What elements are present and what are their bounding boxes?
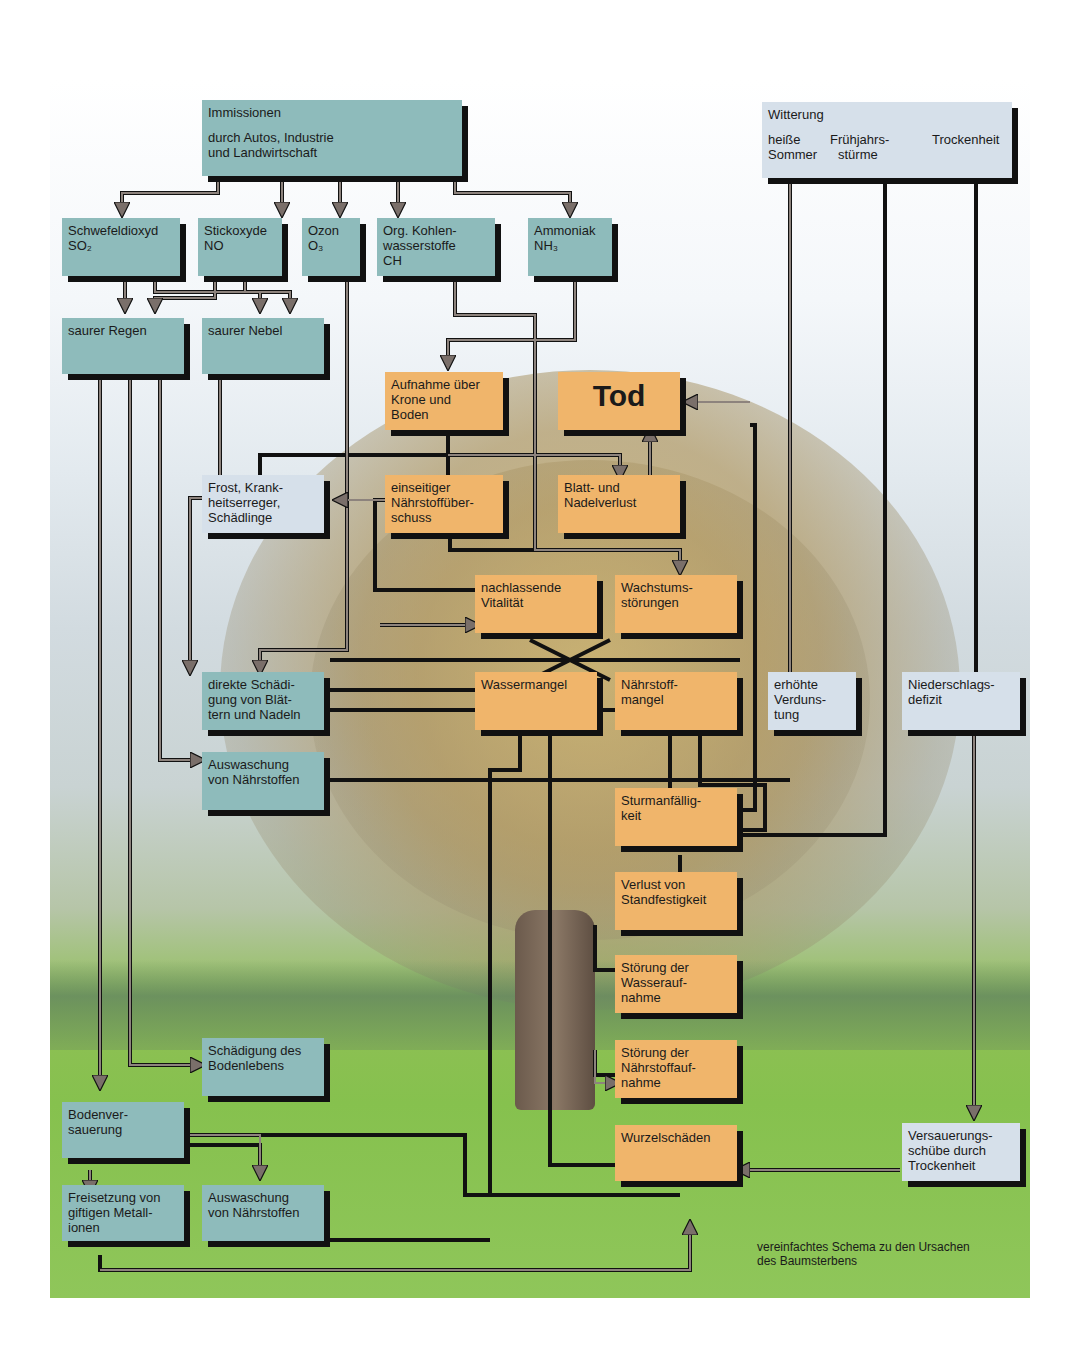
node-text: tern und Nadeln (208, 707, 318, 722)
node-text: Bodenver- (68, 1107, 178, 1122)
node-text: Frühjahrs- (830, 132, 932, 147)
node-naehrstoffmangel: Nährstoff- mangel (615, 672, 737, 730)
spacer (208, 120, 456, 130)
node-text: Nährstoffauf- (621, 1060, 731, 1075)
node-text: stürme (830, 147, 932, 162)
node-text: schuss (391, 510, 497, 525)
node-schwefeldioxyd: Schwefeldioxyd SO₂ (62, 218, 180, 276)
node-ammoniak: Ammoniak NH₃ (528, 218, 612, 276)
node-text: Auswaschung (208, 1190, 318, 1205)
node-text: Störung der (621, 960, 731, 975)
node-text: Versauerungs- (908, 1128, 1014, 1143)
weather-columns: heiße Sommer Frühjahrs- stürme Trockenhe… (768, 132, 1006, 162)
node-verdunstung: erhöhte Verduns- tung (768, 672, 856, 730)
node-text: Schädlinge (208, 510, 318, 525)
node-title: Immissionen (208, 105, 456, 120)
node-wasseraufnahme: Störung der Wasserauf- nahme (615, 955, 737, 1013)
spacer (768, 122, 1006, 132)
node-saurer-nebel: saurer Nebel (202, 318, 324, 374)
node-saurer-regen: saurer Regen (62, 318, 184, 374)
node-text: heiße (768, 132, 830, 147)
node-text: Verlust von (621, 877, 731, 892)
node-text: Sturmanfällig- (621, 793, 731, 808)
node-text: von Nährstoffen (208, 1205, 318, 1220)
node-text: ionen (68, 1220, 178, 1235)
node-text: nahme (621, 990, 731, 1005)
node-title: Witterung (768, 107, 1006, 122)
caption-line: vereinfachtes Schema zu den Ursachen (757, 1240, 970, 1254)
node-text: heitserreger, (208, 495, 318, 510)
node-metallionen: Freisetzung von giftigen Metall- ionen (62, 1185, 184, 1241)
node-text: Schädigung des (208, 1043, 318, 1058)
node-text: Wachstums- (621, 580, 731, 595)
node-bodenversauerung: Bodenver- sauerung (62, 1102, 184, 1158)
node-text: von Nährstoffen (208, 772, 318, 787)
node-text: direkte Schädi- (208, 677, 318, 692)
node-bodenleben: Schädigung des Bodenlebens (202, 1038, 324, 1096)
node-text: NH₃ (534, 238, 606, 253)
node-text: Vitalität (481, 595, 591, 610)
node-niederschlag: Niederschlags- defizit (902, 672, 1020, 730)
node-naehrstoffaufnahme: Störung der Nährstoffauf- nahme (615, 1040, 737, 1098)
node-text: und Landwirtschaft (208, 145, 456, 160)
node-text: nachlassende (481, 580, 591, 595)
diagram-canvas: Immissionen durch Autos, Industrie und L… (50, 80, 1030, 1298)
node-text: sauerung (68, 1122, 178, 1137)
node-text: Standfestigkeit (621, 892, 731, 907)
node-text: tung (774, 707, 850, 722)
node-aufnahme: Aufnahme über Krone und Boden (385, 372, 503, 430)
node-sturm: Sturmanfällig- keit (615, 788, 737, 846)
node-text: keit (621, 808, 731, 823)
node-text: Ozon (308, 223, 354, 238)
node-direkte-schaedigung: direkte Schädi- gung von Blät- tern und … (202, 672, 324, 730)
node-title-death: Tod (560, 374, 678, 418)
node-text: Nährstoffüber- (391, 495, 497, 510)
node-text: nahme (621, 1075, 731, 1090)
node-naehrstoffueberschuss: einseitiger Nährstoffüber- schuss (385, 475, 503, 533)
weather-col-drought: Trockenheit (932, 132, 999, 162)
node-text: Wurzelschäden (621, 1130, 731, 1145)
node-wassermangel: Wassermangel (475, 672, 597, 730)
node-text: Nährstoff- (621, 677, 731, 692)
caption-line: des Baumsterbens (757, 1254, 970, 1268)
node-text: Freisetzung von (68, 1190, 178, 1205)
node-text: störungen (621, 595, 731, 610)
node-text: Nadelverlust (564, 495, 674, 510)
node-text: wasserstoffe (383, 238, 489, 253)
node-text: Störung der (621, 1045, 731, 1060)
node-kohlenwasserstoffe: Org. Kohlen- wasserstoffe CH (377, 218, 495, 276)
node-blattverlust: Blatt- und Nadelverlust (558, 475, 680, 533)
node-text: Schwefeldioxyd (68, 223, 174, 238)
node-text: defizit (908, 692, 1014, 707)
node-text: Niederschlags- (908, 677, 1014, 692)
node-text: saurer Nebel (208, 323, 318, 338)
node-text: schübe durch (908, 1143, 1014, 1158)
node-text: Wassermangel (481, 677, 591, 692)
node-text: Bodenlebens (208, 1058, 318, 1073)
node-text: SO₂ (68, 238, 174, 253)
node-text: saurer Regen (68, 323, 178, 338)
node-text: Boden (391, 407, 497, 422)
node-standfestigkeit: Verlust von Standfestigkeit (615, 872, 737, 930)
node-text: Trockenheit (908, 1158, 1014, 1173)
node-tod: Tod (558, 372, 680, 430)
node-text: Krone und (391, 392, 497, 407)
node-versauerungsschuebe: Versauerungs- schübe durch Trockenheit (902, 1123, 1020, 1181)
node-text: Wasserauf- (621, 975, 731, 990)
weather-col-spring-storms: Frühjahrs- stürme (830, 132, 932, 162)
node-text: giftigen Metall- (68, 1205, 178, 1220)
diagram-caption: vereinfachtes Schema zu den Ursachen des… (757, 1240, 970, 1268)
node-text: gung von Blät- (208, 692, 318, 707)
node-text: Org. Kohlen- (383, 223, 489, 238)
node-text: Auswaschung (208, 757, 318, 772)
node-text: durch Autos, Industrie (208, 130, 456, 145)
node-text: Ammoniak (534, 223, 606, 238)
node-text: Trockenheit (932, 132, 999, 147)
node-stickoxyde: Stickoxyde NO (198, 218, 282, 276)
node-text: Stickoxyde (204, 223, 276, 238)
node-vitalitaet: nachlassende Vitalität (475, 575, 597, 633)
node-witterung: Witterung heiße Sommer Frühjahrs- stürme… (762, 102, 1012, 178)
node-immissionen: Immissionen durch Autos, Industrie und L… (202, 100, 462, 176)
node-wurzelschaeden: Wurzelschäden (615, 1125, 737, 1181)
node-text: NO (204, 238, 276, 253)
